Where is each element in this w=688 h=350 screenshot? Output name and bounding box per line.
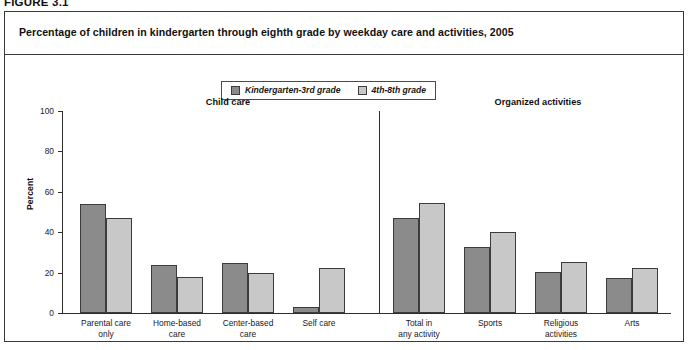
- figure-title: Percentage of children in kindergarten t…: [19, 26, 514, 38]
- bar-4th-8th-grade[interactable]: [248, 273, 274, 313]
- bar-4th-8th-grade[interactable]: [106, 218, 132, 313]
- figure-number: FIGURE 3.1: [4, 0, 69, 8]
- x-axis-category-label: Religiousactivities: [544, 318, 578, 339]
- y-tick-mark: [58, 111, 63, 112]
- section-heading-organized-activities: Organized activities: [495, 97, 582, 107]
- y-tick-label: 80: [45, 147, 54, 155]
- y-tick-mark: [58, 192, 63, 193]
- legend-swatch-icon-dark: [231, 86, 240, 95]
- bar-4th-8th-grade[interactable]: [561, 262, 587, 314]
- y-tick-mark: [58, 313, 63, 314]
- y-tick-label: 20: [45, 268, 54, 276]
- x-axis-category-label: Total inany activity: [398, 318, 439, 339]
- x-axis-category-label: Self care: [302, 318, 335, 329]
- x-axis-category-label: Sports: [478, 318, 502, 329]
- legend-item-4th-8th-grade[interactable]: 4th-8th grade: [358, 86, 426, 95]
- y-tick-label: 100: [40, 107, 54, 115]
- legend-label-4th-8th-grade: 4th-8th grade: [372, 86, 426, 95]
- bar-kindergarten-3rd-grade[interactable]: [535, 272, 561, 313]
- chart-legend: Kindergarten-3rd grade 4th-8th grade: [221, 81, 436, 100]
- plot-area: Child care Organized activities 02040608…: [63, 111, 671, 313]
- bar-kindergarten-3rd-grade[interactable]: [606, 278, 632, 313]
- x-axis-category-label: Center-basedcare: [223, 318, 274, 339]
- bar-kindergarten-3rd-grade[interactable]: [464, 247, 490, 313]
- y-tick-mark: [58, 232, 63, 233]
- legend-item-kindergarten-3rd-grade[interactable]: Kindergarten-3rd grade: [231, 86, 341, 95]
- y-tick-label: 40: [45, 228, 54, 236]
- figure-panel: Percentage of children in kindergarten t…: [4, 11, 684, 342]
- x-axis-category-label: Arts: [625, 318, 640, 329]
- bar-kindergarten-3rd-grade[interactable]: [80, 204, 106, 313]
- bar-kindergarten-3rd-grade[interactable]: [393, 218, 419, 313]
- bar-kindergarten-3rd-grade[interactable]: [293, 307, 319, 313]
- bar-4th-8th-grade[interactable]: [419, 203, 445, 313]
- x-axis-category-label: Parental careonly: [81, 318, 131, 339]
- bar-kindergarten-3rd-grade[interactable]: [151, 265, 177, 313]
- title-divider: [5, 54, 683, 55]
- bar-4th-8th-grade[interactable]: [177, 277, 203, 313]
- legend-label-kindergarten-3rd-grade: Kindergarten-3rd grade: [245, 86, 341, 95]
- bar-4th-8th-grade[interactable]: [490, 232, 516, 313]
- x-axis-category-label: Home-basedcare: [153, 318, 201, 339]
- y-tick-label: 0: [49, 309, 54, 317]
- y-axis-title: Percent: [25, 178, 35, 210]
- y-axis-line: [62, 111, 63, 314]
- bar-4th-8th-grade[interactable]: [632, 268, 658, 313]
- y-tick-mark: [58, 273, 63, 274]
- bar-kindergarten-3rd-grade[interactable]: [222, 263, 248, 314]
- x-axis-line: [62, 313, 671, 314]
- y-tick-label: 60: [45, 188, 54, 196]
- legend-swatch-icon-light: [358, 86, 367, 95]
- section-heading-child-care: Child care: [206, 97, 250, 107]
- section-divider: [379, 111, 380, 314]
- bar-4th-8th-grade[interactable]: [319, 268, 345, 313]
- y-tick-mark: [58, 151, 63, 152]
